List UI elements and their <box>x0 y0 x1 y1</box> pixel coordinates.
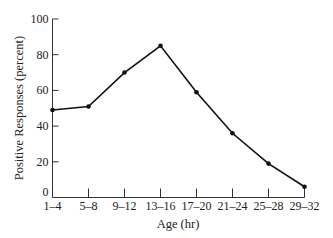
data-point-marker <box>302 184 307 189</box>
y-axis: 020406080100 <box>31 12 59 199</box>
x-tick-label: 5–8 <box>80 199 98 213</box>
x-tick-label: 1–4 <box>44 199 62 213</box>
series-line <box>53 46 305 187</box>
y-tick-label: 100 <box>31 12 49 26</box>
y-tick-label: 20 <box>37 155 49 169</box>
x-tick-label: 21–24 <box>218 199 248 213</box>
data-point-marker <box>50 108 55 113</box>
x-tick-label: 13–16 <box>146 199 176 213</box>
data-point-marker <box>122 70 127 75</box>
data-series <box>50 43 307 189</box>
y-tick-label: 40 <box>37 119 49 133</box>
x-axis-title: Age (hr) <box>157 217 200 231</box>
y-tick-label: 60 <box>37 83 49 97</box>
x-tick-label: 17–20 <box>182 199 212 213</box>
y-axis-title: Positive Responses (percent) <box>12 36 26 180</box>
data-point-marker <box>194 90 199 95</box>
data-point-marker <box>266 161 271 166</box>
x-tick-label: 25–28 <box>254 199 284 213</box>
x-tick-label: 9–12 <box>113 199 137 213</box>
data-point-marker <box>230 131 235 136</box>
line-chart: 020406080100 1–45–89–1213–1617–2021–2425… <box>0 0 333 238</box>
data-point-marker <box>86 104 91 109</box>
x-axis: 1–45–89–1213–1617–2021–2425–2829–32 <box>44 189 320 214</box>
y-tick-label: 0 <box>43 185 49 199</box>
y-tick-label: 80 <box>37 48 49 62</box>
x-tick-label: 29–32 <box>290 199 320 213</box>
data-point-marker <box>158 43 163 48</box>
